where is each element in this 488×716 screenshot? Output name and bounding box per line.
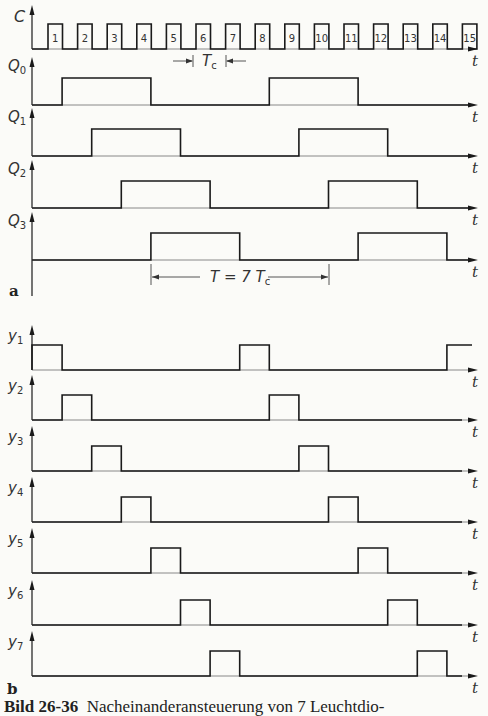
time-axis-label: t [472,525,479,543]
signal-waveform [32,233,470,260]
signal-label: Q2 [8,160,26,179]
arrow-right-icon [186,59,193,64]
clock-pulse-number: 4 [141,33,147,44]
signal-label: y2 [7,377,23,396]
signal-y1: y1t [7,325,479,391]
arrow-left-icon [226,59,233,64]
signal-label: y7 [7,633,23,652]
timing-diagram: C123456789101112131415tTcQ0tQ1tQ2tQ3tT =… [0,0,488,700]
time-axis-arrow-icon [468,674,478,679]
clock-period-marker: Tc [173,52,246,71]
signal-label: Q3 [8,212,26,231]
axis-arrow-icon [30,426,35,436]
signal-waveform [32,548,462,573]
signal-y3: y3t [7,426,479,492]
signal-waveform [32,181,470,208]
time-axis-arrow-icon [468,469,478,474]
clock-pulse-number: 7 [230,33,236,44]
signal-y4: y4t [7,477,479,543]
clock-pulse-number: 8 [259,33,265,44]
arrow-right-icon [321,275,328,280]
signal-y2: y2t [7,375,479,441]
signal-label: y5 [7,530,23,549]
time-axis-label: t [472,423,479,441]
signal-q2: Q2t [8,160,479,229]
time-axis-label: t [472,108,479,126]
clock-pulse-number: 5 [170,33,176,44]
time-axis-label: t [472,52,479,70]
clock-pulse-number: 10 [315,33,328,44]
signal-label: Q0 [8,57,26,76]
time-axis-arrow-icon [468,368,478,373]
signal-label: y3 [7,428,23,447]
time-axis-label: t [472,263,479,281]
time-axis-label: t [472,159,479,177]
time-axis-arrow-icon [468,418,478,423]
signal-label: y4 [7,479,23,498]
panel-label-b: b [7,680,18,698]
arrow-left-icon [152,275,159,280]
clock-pulse-number: 15 [463,33,476,44]
axis-arrow-icon [30,108,35,118]
signal-waveform [32,129,470,156]
clock-pulse-number: 2 [82,33,88,44]
time-axis-label: t [472,679,479,697]
signal-label: Q1 [8,108,26,127]
signal-label: C [14,7,26,26]
signal-waveform [32,446,462,471]
clock-pulse-number: 12 [374,33,387,44]
axis-arrow-icon [30,580,35,590]
signal-label: y1 [7,327,23,346]
signal-q0: Q0t [8,57,479,126]
signal-label: y6 [7,582,23,601]
axis-arrow-icon [30,325,35,335]
axis-arrow-icon [30,160,35,170]
clock-pulse-number: 3 [111,33,117,44]
signal-waveform [32,497,462,522]
time-axis-label: t [472,373,479,391]
time-axis-label: t [472,576,479,594]
clock-pulse-number: 11 [345,33,358,44]
axis-arrow-icon [30,212,35,222]
figure-caption: Bild 26-36 Nacheinanderansteuerung von 7… [4,697,385,716]
clock-pulse-number: 9 [289,33,295,44]
caption-text: Nacheinanderansteuerung von 7 Leuchtdio- [87,697,385,716]
time-axis-label: t [472,211,479,229]
signal-q1: Q1t [8,108,479,177]
axis-arrow-icon [30,57,35,67]
caption-number: Bild 26-36 [4,697,78,716]
signal-waveform [32,600,462,625]
clock-pulse-number: 1 [52,33,58,44]
clock-period-label: Tc [202,52,217,71]
signal-y6: y6t [7,580,479,646]
clock-pulse-number: 13 [404,33,417,44]
signal-y7: y7t [7,631,479,697]
axis-arrow-icon [30,477,35,487]
time-axis-arrow-icon [468,623,478,628]
signal-waveform [32,651,462,676]
cycle-period-marker: T = 7 Tc [151,264,329,287]
clock-pulse-number: 14 [434,33,447,44]
time-axis-label: t [472,474,479,492]
signal-waveform [32,395,462,420]
time-axis-arrow-icon [468,571,478,576]
cycle-period-label: T = 7 Tc [210,268,270,287]
signal-y5: y5t [7,528,479,594]
signal-waveform [32,345,472,370]
axis-arrow-icon [30,631,35,641]
clock-pulse-number: 6 [200,33,206,44]
time-axis-arrow-icon [468,520,478,525]
axis-arrow-icon [30,5,35,15]
panel-label-a: a [9,282,19,300]
time-axis-label: t [472,628,479,646]
axis-arrow-icon [30,528,35,538]
axis-arrow-icon [30,375,35,385]
signal-clock: C123456789101112131415t [14,5,479,70]
signal-waveform [32,78,470,105]
